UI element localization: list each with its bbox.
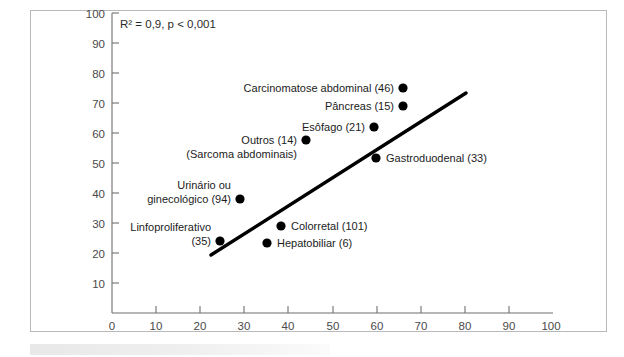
point-label-linfoproliferativo-line1: Linfoproliferativo xyxy=(130,221,211,233)
x-tick-label: 70 xyxy=(415,320,428,332)
point-label-urinario-line1: Urinário ou xyxy=(177,179,231,191)
point-label-gastroduodenal: Gastroduodenal (33) xyxy=(386,152,487,164)
point-labels: Carcinomatose abdominal (46) Pâncreas (1… xyxy=(130,82,487,249)
point-label-linfoproliferativo-line2: (35) xyxy=(191,235,211,247)
point-label-outros-line2: (Sarcoma abdominais) xyxy=(186,148,297,160)
scatter-plot: 100 90 80 70 60 50 40 30 20 10 0 10 20 xyxy=(0,0,624,357)
y-tick-label: 20 xyxy=(92,248,105,260)
data-point[interactable] xyxy=(371,153,380,162)
y-tick-label: 80 xyxy=(92,68,105,80)
data-point[interactable] xyxy=(369,122,378,131)
data-point[interactable] xyxy=(276,221,285,230)
point-label-hepatobiliar: Hepatobiliar (6) xyxy=(277,237,352,249)
x-tick-label: 100 xyxy=(541,320,560,332)
x-tick-label: 10 xyxy=(150,320,163,332)
y-axis-tick-labels: 100 90 80 70 60 50 40 30 20 10 xyxy=(86,8,105,290)
data-point[interactable] xyxy=(398,83,407,92)
y-tick-label: 90 xyxy=(92,38,105,50)
x-tick-label: 40 xyxy=(282,320,295,332)
y-tick-label: 30 xyxy=(92,218,105,230)
point-label-carcinomatose: Carcinomatose abdominal (46) xyxy=(244,82,394,94)
data-point[interactable] xyxy=(301,135,310,144)
x-tick-label: 80 xyxy=(459,320,472,332)
x-axis-ticks xyxy=(156,306,509,313)
data-point[interactable] xyxy=(398,101,407,110)
data-point[interactable] xyxy=(235,194,244,203)
data-point[interactable] xyxy=(262,238,271,247)
y-tick-label: 100 xyxy=(86,8,105,20)
x-tick-label: 20 xyxy=(194,320,207,332)
y-tick-label: 50 xyxy=(92,158,105,170)
x-tick-label: 50 xyxy=(327,320,340,332)
caption-bar xyxy=(30,344,330,355)
y-tick-label: 60 xyxy=(92,128,105,140)
x-axis-tick-labels: 0 10 20 30 40 50 60 70 80 90 100 xyxy=(109,320,561,332)
x-tick-label: 90 xyxy=(503,320,516,332)
x-tick-label: 30 xyxy=(238,320,251,332)
point-label-pancreas: Pâncreas (15) xyxy=(325,100,394,112)
point-label-esofago: Esôfago (21) xyxy=(302,121,365,133)
regression-annotation: R² = 0,9, p < 0,001 xyxy=(120,18,216,30)
y-tick-label: 70 xyxy=(92,98,105,110)
y-tick-label: 10 xyxy=(92,278,105,290)
figure-root: 100 90 80 70 60 50 40 30 20 10 0 10 20 xyxy=(0,0,624,357)
x-tick-label: 60 xyxy=(371,320,384,332)
data-point[interactable] xyxy=(215,236,224,245)
y-tick-label: 40 xyxy=(92,188,105,200)
point-label-urinario-line2: ginecológico (94) xyxy=(147,193,231,205)
point-label-outros-line1: Outros (14) xyxy=(241,134,297,146)
point-label-colorretal: Colorretal (101) xyxy=(291,220,367,232)
x-tick-label: 0 xyxy=(109,320,115,332)
y-axis-ticks xyxy=(112,13,119,283)
